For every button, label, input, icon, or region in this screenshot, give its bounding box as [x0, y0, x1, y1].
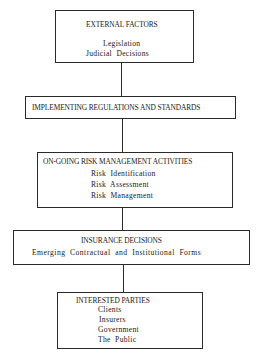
connector-1: [121, 62, 122, 97]
insurance-decisions-item: Emerging Contractual and Institutional F…: [32, 248, 201, 258]
insurance-decisions-title: INSURANCE DECISIONS: [81, 236, 162, 245]
interested-parties-item: Government: [98, 325, 139, 335]
connector-3: [122, 207, 123, 230]
external-factors-item: Judicial Decisions: [86, 49, 149, 59]
risk-management-activities-box: ON-GOING RISK MANAGEMENT ACTIVITIES Risk…: [37, 152, 233, 208]
implementing-regulations-box: IMPLEMENTING REGULATIONS AND STANDARDS: [25, 96, 236, 119]
interested-parties-item: Insurers: [99, 315, 126, 325]
risk-management-item: Risk Identification: [91, 169, 156, 179]
interested-parties-box: INTERESTED PARTIES Clients Insurers Gove…: [57, 292, 203, 349]
interested-parties-title: INTERESTED PARTIES: [76, 296, 150, 305]
external-factors-item: Legislation: [103, 39, 140, 49]
external-factors-title: EXTERNAL FACTORS: [86, 20, 158, 29]
interested-parties-item: Clients: [98, 305, 122, 315]
insurance-decisions-box: INSURANCE DECISIONS Emerging Contractual…: [13, 230, 250, 265]
external-factors-box: EXTERNAL FACTORS Legislation Judicial De…: [55, 10, 194, 63]
implementing-regulations-title: IMPLEMENTING REGULATIONS AND STANDARDS: [32, 103, 200, 112]
interested-parties-item: The Public: [98, 335, 136, 345]
risk-management-activities-title: ON-GOING RISK MANAGEMENT ACTIVITIES: [43, 157, 192, 166]
connector-2: [122, 118, 123, 152]
risk-management-item: Risk Management: [91, 191, 153, 201]
connector-4: [123, 264, 124, 292]
risk-management-item: Risk Assessment: [91, 180, 149, 190]
